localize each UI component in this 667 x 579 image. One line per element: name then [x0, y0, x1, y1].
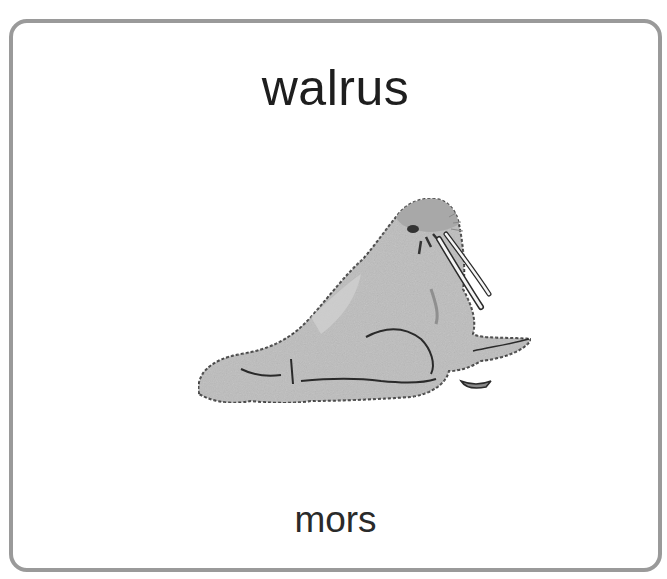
walrus-icon — [181, 189, 541, 419]
word-title: walrus — [13, 59, 658, 117]
translation-label: mors — [13, 499, 658, 541]
flashcard: walrus — [9, 19, 662, 572]
